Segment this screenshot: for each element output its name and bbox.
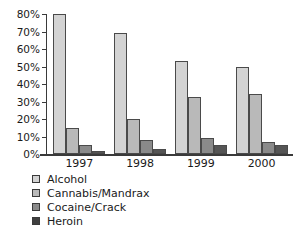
y-tick-mark — [42, 49, 46, 50]
x-axis-label-2000: 2000 — [248, 158, 276, 169]
legend-label: Cannabis/Mandrax — [47, 188, 150, 199]
y-tick-label: 50% — [17, 61, 40, 72]
y-tick-label: 40% — [17, 79, 40, 90]
bar-group-2000 — [236, 14, 288, 154]
y-tick-mark — [42, 67, 46, 68]
bar-1999-cocaine-crack — [201, 138, 214, 154]
bar-1999-alcohol — [175, 61, 188, 154]
y-tick-mark — [42, 32, 46, 33]
y-tick-mark — [42, 137, 46, 138]
bar-1999-heroin — [214, 145, 227, 154]
x-axis-label-1999: 1999 — [187, 158, 215, 169]
bar-1997-cocaine-crack — [79, 145, 92, 154]
y-tick-label: 80% — [17, 9, 40, 20]
chart-legend: AlcoholCannabis/MandraxCocaine/CrackHero… — [32, 172, 150, 228]
y-tick-label: 10% — [17, 131, 40, 142]
y-tick-mark — [42, 119, 46, 120]
legend-label: Cocaine/Crack — [47, 202, 126, 213]
y-tick-mark — [42, 102, 46, 103]
x-axis-label-1998: 1998 — [126, 158, 154, 169]
y-tick-label: 0% — [23, 149, 40, 160]
bar-group-1999 — [175, 14, 227, 154]
x-axis-line — [40, 154, 293, 156]
x-axis-label-1997: 1997 — [65, 158, 93, 169]
bar-1998-heroin — [153, 149, 166, 154]
y-axis-line — [46, 14, 47, 154]
plot-area: 0%10%20%30%40%50%60%70%80% 1997199819992… — [46, 14, 289, 154]
legend-swatch-icon — [32, 189, 40, 197]
legend-item-heroin: Heroin — [32, 214, 150, 228]
bar-2000-heroin — [275, 145, 288, 154]
bar-1997-heroin — [92, 151, 105, 154]
bar-1997-alcohol — [53, 14, 66, 154]
legend-item-alcohol: Alcohol — [32, 172, 150, 186]
y-tick-label: 20% — [17, 114, 40, 125]
y-tick-label: 60% — [17, 44, 40, 55]
bar-chart-figure: 0%10%20%30%40%50%60%70%80% 1997199819992… — [0, 0, 306, 231]
bar-1998-alcohol — [114, 33, 127, 154]
legend-swatch-icon — [32, 203, 40, 211]
legend-swatch-icon — [32, 175, 40, 183]
legend-label: Alcohol — [47, 174, 87, 185]
bar-group-1998 — [114, 14, 166, 154]
legend-swatch-icon — [32, 217, 40, 225]
y-tick-mark — [42, 84, 46, 85]
y-tick-label: 30% — [17, 96, 40, 107]
bar-1999-cannabis-mandrax — [188, 97, 201, 154]
legend-label: Heroin — [47, 216, 83, 227]
bar-2000-cocaine-crack — [262, 142, 275, 154]
legend-item-cannabis-mandrax: Cannabis/Mandrax — [32, 186, 150, 200]
bar-group-1997 — [53, 14, 105, 154]
bar-1997-cannabis-mandrax — [66, 128, 79, 154]
bar-2000-cannabis-mandrax — [249, 94, 262, 154]
y-tick-mark — [42, 14, 46, 15]
bar-1998-cannabis-mandrax — [127, 119, 140, 154]
bar-2000-alcohol — [236, 67, 249, 155]
bar-1998-cocaine-crack — [140, 140, 153, 154]
y-tick-mark — [42, 154, 46, 155]
y-tick-label: 70% — [17, 26, 40, 37]
legend-item-cocaine-crack: Cocaine/Crack — [32, 200, 150, 214]
